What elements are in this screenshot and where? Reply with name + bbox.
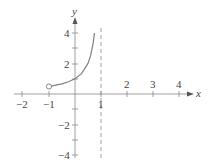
x-tick-label: 1 [98,98,104,110]
x-tick-label: 3 [150,78,156,90]
y-axis-arrow-icon [73,17,78,24]
y-tick-label: −4 [58,149,70,161]
open-circle-endpoint [46,84,51,89]
y-axis-label: y [71,5,77,17]
x-tick-label: 2 [124,78,130,90]
y-tick-label: 2 [64,58,70,70]
y-tick-label: 4 [64,27,70,39]
x-tick-label: −1 [43,98,55,110]
x-tick-label: 4 [176,78,182,90]
x-axis-arrow-icon [187,92,194,97]
x-tick-label: −2 [16,98,28,110]
function-graph: −2 −1 1 2 3 4 4 2 −2 −4 x y [0,0,212,166]
function-curve [51,33,95,86]
y-tick-label: −2 [58,119,70,131]
x-axis-label: x [195,87,201,99]
